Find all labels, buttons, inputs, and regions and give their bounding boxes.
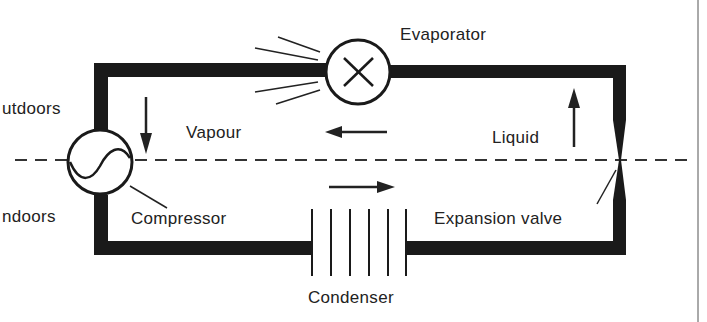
pipe-top-right	[390, 65, 626, 78]
pipe-top-left	[94, 63, 326, 77]
label-outdoors: utdoors	[2, 99, 61, 118]
pipe-bottom-right	[405, 241, 626, 255]
label-evaporator: Evaporator	[400, 25, 486, 44]
compressor-leader-line	[130, 186, 167, 208]
condenser-icon	[312, 209, 406, 276]
pipe-right-upper	[613, 65, 626, 160]
label-expansion-valve: Expansion valve	[434, 209, 562, 228]
flow-arrow-down	[140, 97, 152, 154]
pipe-left-lower	[94, 195, 108, 255]
label-compressor: Compressor	[131, 209, 227, 228]
flow-arrow-right	[329, 181, 395, 193]
label-vapour: Vapour	[186, 123, 241, 142]
label-condenser: Condenser	[308, 288, 394, 307]
flow-arrow-up	[568, 88, 580, 147]
label-indoors: ndoors	[2, 207, 56, 226]
flow-arrow-left	[325, 126, 387, 138]
refrigeration-diagram: Evaporator utdoors Vapour Liquid ndoors …	[0, 0, 707, 322]
label-liquid: Liquid	[492, 128, 539, 147]
expansion-valve-leader-line	[597, 170, 616, 204]
pipe-right-lower	[613, 160, 626, 255]
pipe-bottom-left	[94, 241, 312, 255]
compressor-icon	[68, 130, 167, 208]
